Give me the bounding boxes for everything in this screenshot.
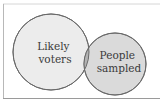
- venn-diagram: Likely voters People sampled: [0, 0, 160, 105]
- likely-voters-label: Likely voters: [37, 40, 73, 65]
- people-sampled-label: People sampled: [97, 49, 142, 74]
